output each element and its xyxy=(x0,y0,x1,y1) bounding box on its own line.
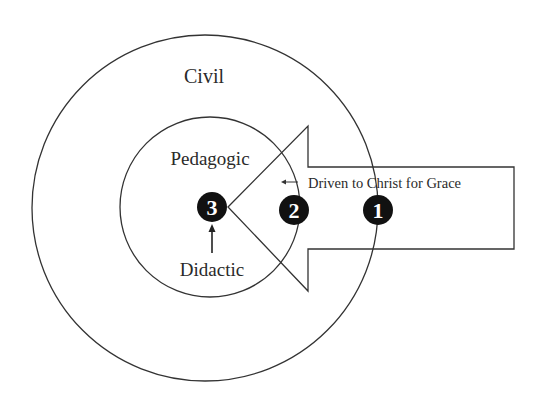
marker-1: 1 xyxy=(363,195,393,225)
pedagogic-label: Pedagogic xyxy=(170,148,249,169)
law-diagram: 1 2 3 Civil Pedagogic Didactic Driven to… xyxy=(0,0,544,404)
marker-3: 3 xyxy=(197,192,227,222)
didactic-label: Didactic xyxy=(180,259,244,280)
marker-3-number: 3 xyxy=(207,195,218,220)
up-arrow-icon xyxy=(209,224,216,253)
civil-label: Civil xyxy=(184,65,224,87)
marker-2-number: 2 xyxy=(289,198,300,223)
arrow-label: Driven to Christ for Grace xyxy=(308,175,461,191)
marker-1-number: 1 xyxy=(373,198,384,223)
marker-2: 2 xyxy=(279,195,309,225)
